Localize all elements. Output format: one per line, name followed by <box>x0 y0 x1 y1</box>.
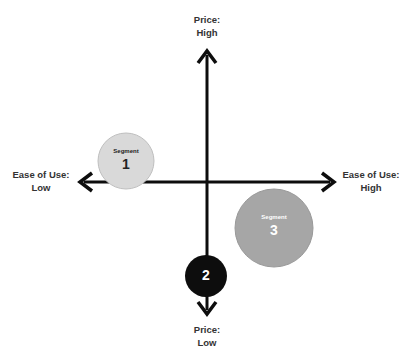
perceptual-map: Price: High Price: Low Ease of Use: Low … <box>0 0 409 359</box>
segment-1-label: Segment 1 <box>98 148 154 171</box>
price-high-label: Price: High <box>177 13 237 39</box>
price-low-label: Price: Low <box>177 323 237 349</box>
ease-of-use-high-label: Ease of Use: High <box>336 168 406 194</box>
segment-2-label: 2 <box>185 268 227 282</box>
segment-3-label: Segment 3 <box>235 214 313 237</box>
ease-of-use-low-label: Ease of Use: Low <box>6 168 76 194</box>
